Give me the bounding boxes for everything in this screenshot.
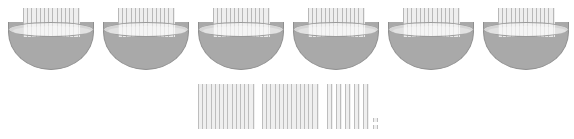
loose-ten-rod-1[interactable] (327, 84, 333, 129)
loose-ten-rod-3[interactable] (345, 84, 351, 129)
loose-ten-rod-4[interactable] (354, 84, 360, 129)
loose-one-unit-2[interactable] (373, 125, 378, 129)
loose-hundred-flat-2[interactable] (262, 84, 319, 129)
loose-ten-rod-2[interactable] (336, 84, 342, 129)
loose-ten-rod-5[interactable] (363, 84, 369, 129)
loose-hundred-flat-1[interactable] (198, 84, 255, 129)
loose-blocks-row (0, 0, 574, 139)
illustration-canvas (0, 0, 574, 139)
loose-one-unit-1[interactable] (373, 118, 378, 122)
